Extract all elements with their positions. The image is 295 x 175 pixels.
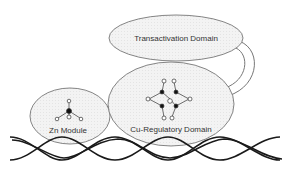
cu-regulatory-domain: Cu-Regulatory Domain [108, 62, 234, 146]
zn-module-label: Zn Module [49, 126, 87, 135]
protein-domain-diagram: Transactivation Domain Zn Module Cu-Regu… [0, 0, 295, 175]
zn-module: Zn Module [30, 88, 110, 144]
transactivation-domain-label: Transactivation Domain [134, 34, 218, 43]
transactivation-domain: Transactivation Domain [109, 15, 243, 61]
cu-regulatory-domain-label: Cu-Regulatory Domain [130, 125, 211, 134]
